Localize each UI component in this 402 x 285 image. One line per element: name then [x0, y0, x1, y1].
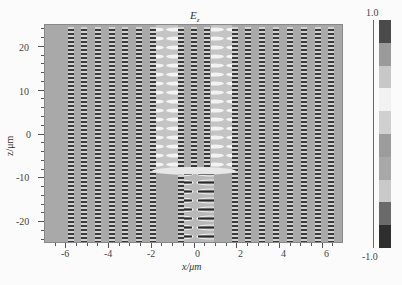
x-tick	[194, 243, 195, 248]
x-tick	[204, 243, 205, 246]
x-tick	[279, 243, 280, 248]
y-tick	[38, 46, 44, 47]
colorbar-segment	[379, 180, 391, 203]
field-pattern	[45, 25, 343, 243]
y-axis-ticks	[38, 24, 44, 243]
y-tick	[41, 142, 44, 143]
colorbar-segment	[379, 88, 391, 111]
colorbar-segment	[379, 111, 391, 134]
y-axis-label: z/μm	[4, 136, 15, 156]
y-tick	[41, 98, 44, 99]
x-tick-label: 4	[281, 248, 286, 259]
x-tick	[183, 243, 184, 246]
x-tick	[140, 243, 141, 246]
x-tick	[172, 243, 173, 246]
x-tick	[97, 243, 98, 246]
y-tick	[41, 81, 44, 82]
x-tick-label: -2	[147, 248, 155, 259]
x-tick	[215, 243, 216, 246]
x-tick	[322, 243, 323, 248]
x-tick-label: 2	[238, 248, 243, 259]
y-tick	[41, 239, 44, 240]
x-tick	[226, 243, 227, 246]
y-tick	[38, 177, 44, 178]
x-tick	[161, 243, 162, 246]
colorbar-segment	[379, 20, 391, 43]
heatmap-plot-area	[44, 24, 343, 243]
y-tick-label: -10	[16, 172, 29, 183]
y-tick	[38, 90, 44, 91]
colorbar-axis	[373, 20, 374, 248]
y-tick-label: 10	[19, 86, 29, 97]
colorbar-min-label: -1.0	[362, 251, 378, 262]
x-tick	[332, 243, 333, 246]
y-tick	[41, 169, 44, 170]
colorbar-segment	[379, 225, 391, 248]
colorbar-max-label: 1.0	[366, 7, 379, 18]
y-tick-label: -20	[16, 216, 29, 227]
y-tick	[38, 221, 44, 222]
x-tick-label: -4	[104, 248, 112, 259]
x-tick	[268, 243, 269, 246]
y-tick-label: 20	[19, 42, 29, 53]
y-tick	[41, 125, 44, 126]
y-tick-label: 0	[26, 129, 31, 140]
y-tick	[41, 186, 44, 187]
y-tick	[38, 134, 44, 135]
y-tick	[41, 107, 44, 108]
x-tick	[151, 243, 152, 248]
y-tick	[41, 28, 44, 29]
y-tick	[41, 151, 44, 152]
x-tick	[119, 243, 120, 246]
colorbar-segment	[379, 134, 391, 157]
y-tick	[41, 37, 44, 38]
x-tick-label: 6	[324, 248, 329, 259]
x-tick	[290, 243, 291, 246]
x-tick	[55, 243, 56, 246]
x-tick-label: -6	[61, 248, 69, 259]
y-tick	[41, 160, 44, 161]
y-tick	[41, 230, 44, 231]
colorbar-segment	[379, 202, 391, 225]
y-tick	[41, 116, 44, 117]
chart-title: Ez	[190, 9, 199, 24]
x-tick	[247, 243, 248, 246]
y-tick	[41, 212, 44, 213]
x-tick	[236, 243, 237, 248]
x-tick	[87, 243, 88, 246]
x-axis-ticks	[44, 243, 343, 248]
x-tick	[76, 243, 77, 246]
y-tick	[41, 55, 44, 56]
x-axis-label: x/μm	[182, 261, 201, 272]
y-tick	[41, 195, 44, 196]
x-tick-label: 0	[195, 248, 200, 259]
colorbar-segment	[379, 157, 391, 180]
x-tick	[300, 243, 301, 246]
colorbar-segment	[379, 66, 391, 89]
colorbar	[379, 20, 391, 248]
x-tick	[311, 243, 312, 246]
y-tick	[41, 72, 44, 73]
y-tick	[41, 204, 44, 205]
y-tick	[41, 63, 44, 64]
x-tick	[65, 243, 66, 248]
x-tick	[108, 243, 109, 248]
x-tick	[258, 243, 259, 246]
x-tick	[129, 243, 130, 246]
colorbar-segment	[379, 43, 391, 66]
